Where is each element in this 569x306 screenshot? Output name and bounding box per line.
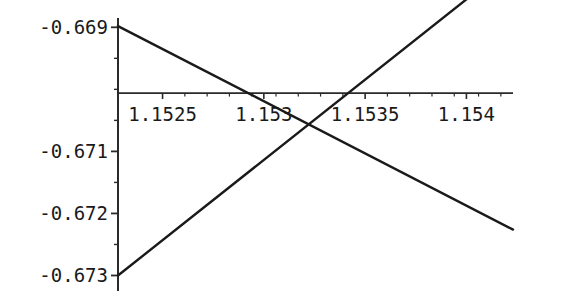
y-tick-label: -0.673 <box>0 266 108 285</box>
x-tick-label: 1.1525 <box>128 105 197 124</box>
x-tick-label: 1.154 <box>438 105 495 124</box>
y-axis-major-ticks <box>111 27 118 275</box>
x-tick-label: 1.1535 <box>331 105 400 124</box>
x-tick-label: 1.153 <box>235 105 292 124</box>
axes-group <box>118 18 513 291</box>
data-series-group <box>118 0 513 275</box>
y-tick-label: -0.672 <box>0 204 108 223</box>
x-axis-major-ticks <box>163 93 467 99</box>
y-tick-label: -0.671 <box>0 142 108 161</box>
plot-figure: 1.15251.1531.15351.154 -0.669-0.671-0.67… <box>0 0 569 306</box>
y-tick-label: -0.669 <box>0 18 108 37</box>
series-descending-line <box>118 26 513 230</box>
series-ascending-line <box>118 0 511 275</box>
